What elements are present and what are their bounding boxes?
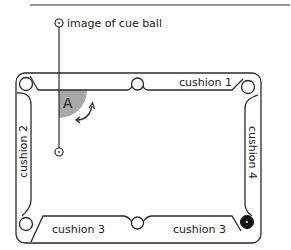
cushion-2-label: cushion 2 — [17, 125, 30, 178]
cushion-3-left-label: cushion 3 — [52, 223, 105, 236]
cue-ball-image-label: image of cue ball — [67, 17, 162, 30]
billiards-diagram: image of cue ball A cushion 1 cushion 3 … — [0, 0, 291, 250]
cue-ball-image-center — [58, 22, 60, 24]
pocket-bottom-side-icon — [132, 217, 144, 229]
cushion-3-right-label: cushion 3 — [173, 223, 226, 236]
pocket-dot — [246, 221, 248, 223]
cushion-1-label: cushion 1 — [179, 76, 232, 89]
pocket-top-left-icon — [20, 78, 33, 91]
pocket-top-right-icon — [242, 81, 255, 94]
cushion-4-label: cushion 4 — [246, 126, 259, 179]
pocket-bottom-left-icon — [20, 218, 33, 231]
angle-a-label: A — [63, 95, 73, 111]
cue-ball-center — [58, 151, 60, 153]
pocket-top-side-icon — [132, 78, 144, 90]
